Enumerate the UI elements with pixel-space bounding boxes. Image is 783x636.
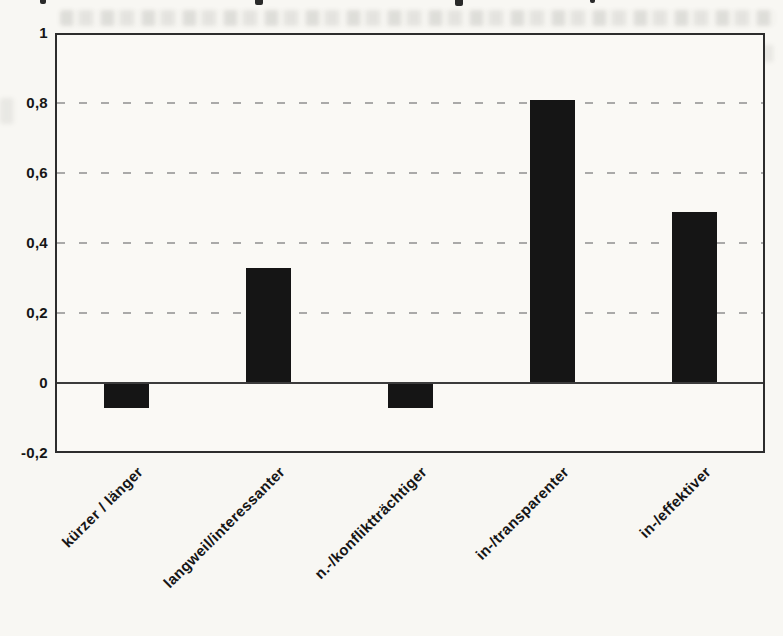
gridline [57, 242, 763, 244]
zero-line [57, 382, 763, 384]
x-category-label: in-/effektiver [636, 463, 714, 541]
gridline [57, 312, 763, 314]
scan-bleedthrough-smudge [60, 10, 776, 26]
bar [530, 100, 575, 384]
page-edge-mark [590, 0, 595, 3]
y-tick-label: 0 [0, 374, 48, 392]
y-tick-label: 0,8 [0, 94, 48, 112]
gridline [57, 172, 763, 174]
bar [246, 268, 291, 384]
bar [104, 383, 149, 408]
y-tick-label: 1 [0, 24, 48, 42]
y-tick-label: -0,2 [0, 444, 48, 462]
page-edge-mark [255, 0, 263, 5]
scanned-page: 10,80,60,40,20-0,2 kürzer / längerlangwe… [0, 0, 783, 636]
x-category-label: n.-/konfliktträchtiger [311, 463, 430, 582]
x-category-label: in-/transparenter [472, 463, 572, 563]
y-tick-label: 0,2 [0, 304, 48, 322]
bar [388, 383, 433, 408]
x-category-label: kürzer / länger [58, 463, 146, 551]
plot-area [55, 33, 765, 453]
bar [672, 212, 717, 384]
y-tick-label: 0,6 [0, 164, 48, 182]
y-tick-label: 0,4 [0, 234, 48, 252]
x-category-label: langweil/interessanter [160, 463, 288, 591]
page-edge-mark [40, 0, 46, 4]
gridline [57, 102, 763, 104]
page-edge-mark [455, 0, 463, 6]
